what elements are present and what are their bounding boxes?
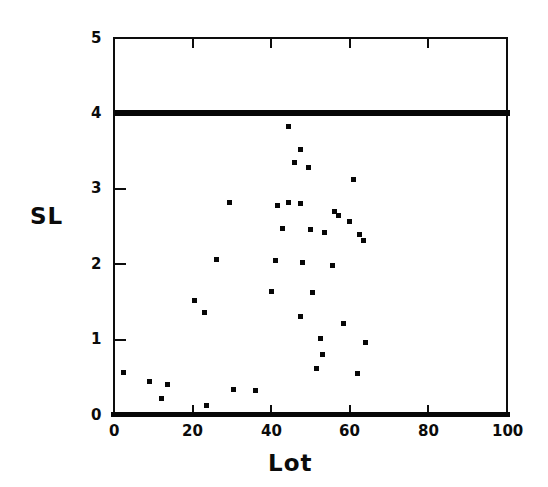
data-point xyxy=(306,165,311,170)
data-point xyxy=(351,177,356,182)
data-point xyxy=(314,366,319,371)
y-tick-3 xyxy=(115,188,126,190)
data-point xyxy=(273,258,278,263)
data-point xyxy=(322,230,327,235)
x-tick-top-80 xyxy=(427,39,429,48)
data-point xyxy=(227,200,232,205)
data-point xyxy=(292,160,297,165)
x-tick-top-60 xyxy=(349,39,351,48)
y-tick-label-1: 1 xyxy=(91,332,101,347)
data-point xyxy=(363,340,368,345)
data-point xyxy=(298,314,303,319)
x-tick-label-100: 100 xyxy=(492,424,523,439)
data-point xyxy=(361,238,366,243)
x-tick-label-80: 80 xyxy=(418,424,439,439)
data-point xyxy=(286,124,291,129)
x-tick-top-40 xyxy=(270,39,272,48)
plot-frame-right xyxy=(506,37,508,416)
data-point xyxy=(298,201,303,206)
y-tick-2 xyxy=(115,263,126,265)
data-point xyxy=(504,412,510,417)
data-point xyxy=(357,232,362,237)
data-point xyxy=(159,396,164,401)
data-point xyxy=(320,352,325,357)
data-point xyxy=(253,388,258,393)
x-tick-label-60: 60 xyxy=(339,424,360,439)
data-point xyxy=(355,371,360,376)
data-point xyxy=(121,370,126,375)
y-tick-label-0: 0 xyxy=(91,408,101,423)
data-point xyxy=(347,219,352,224)
data-point xyxy=(300,260,305,265)
x-tick-label-40: 40 xyxy=(261,424,282,439)
y-tick-label-2: 2 xyxy=(91,257,101,272)
data-point xyxy=(308,227,313,232)
y-tick-label-3: 3 xyxy=(91,181,101,196)
data-point xyxy=(310,290,315,295)
x-tick-top-20 xyxy=(192,39,194,48)
data-point xyxy=(330,263,335,268)
x-tick-label-20: 20 xyxy=(182,424,203,439)
data-point xyxy=(504,110,510,116)
scatter-plot-figure: SL Lot 020406080100012345 xyxy=(0,0,548,487)
data-point xyxy=(298,147,303,152)
plot-area: 020406080100012345 xyxy=(0,0,548,487)
data-point xyxy=(286,200,291,205)
data-point xyxy=(231,387,236,392)
data-point xyxy=(318,336,323,341)
data-point xyxy=(280,226,285,231)
data-point xyxy=(147,379,152,384)
data-point xyxy=(204,403,209,408)
y-tick-label-5: 5 xyxy=(91,31,101,46)
data-point xyxy=(275,203,280,208)
data-point xyxy=(214,257,219,262)
data-point xyxy=(192,298,197,303)
plot-frame-left xyxy=(113,37,115,416)
data-point xyxy=(202,310,207,315)
plot-frame-top xyxy=(113,37,508,39)
y-tick-label-4: 4 xyxy=(91,106,101,121)
data-point xyxy=(165,382,170,387)
data-point xyxy=(341,321,346,326)
y-tick-1 xyxy=(115,339,126,341)
x-tick-label-0: 0 xyxy=(109,424,119,439)
data-point xyxy=(269,289,274,294)
data-point xyxy=(336,213,341,218)
